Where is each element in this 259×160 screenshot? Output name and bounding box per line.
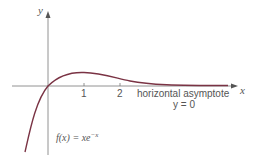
tick-label-1: 1 [81, 88, 87, 99]
x-axis-label: x [240, 84, 245, 96]
x-axis-arrow-icon [231, 84, 238, 89]
y-axis-arrow-icon [46, 11, 51, 18]
function-label-base: f(x) = xe [56, 132, 91, 143]
function-label: f(x) = xe−x [56, 131, 98, 143]
asymptote-label-line2: y = 0 [173, 99, 195, 110]
y-axis-label: y [38, 4, 43, 16]
tick-label-2: 2 [117, 88, 123, 99]
graph-canvas [0, 0, 259, 160]
function-label-exponent: −x [91, 131, 99, 139]
asymptote-label-line1: horizontal asymptote [137, 88, 229, 99]
